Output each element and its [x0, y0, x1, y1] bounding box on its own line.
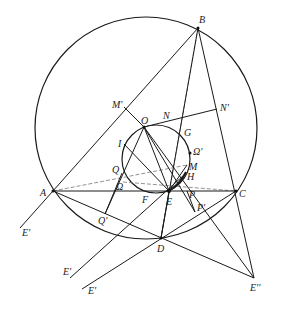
svg-text:O: O [141, 115, 148, 126]
svg-text:A: A [39, 187, 47, 198]
svg-text:E': E' [62, 266, 72, 277]
svg-text:B: B [199, 14, 205, 25]
geometry-diagram: B A C D E F G H I M M' N N' O P P' Q Q' … [0, 0, 282, 314]
svg-text:N': N' [219, 102, 230, 113]
point-labels: B A C D E F G H I M M' N N' O P P' Q Q' … [21, 14, 261, 296]
solid-lines [20, 28, 254, 289]
svg-text:F: F [141, 194, 149, 205]
svg-text:E'': E'' [249, 282, 261, 293]
svg-text:D: D [156, 243, 165, 254]
svg-text:M': M' [111, 99, 123, 110]
svg-text:G: G [184, 127, 191, 138]
svg-text:Ω: Ω [116, 181, 123, 192]
dashed-lines [53, 28, 236, 238]
svg-text:Ω': Ω' [193, 146, 203, 157]
circumcircle [35, 17, 257, 239]
svg-text:N: N [162, 110, 171, 121]
svg-text:Q: Q [112, 164, 120, 175]
svg-text:E': E' [87, 285, 97, 296]
svg-text:H: H [186, 171, 195, 182]
svg-text:M: M [188, 161, 198, 172]
svg-text:Q': Q' [98, 215, 108, 226]
svg-text:E': E' [21, 227, 31, 238]
svg-text:C: C [239, 188, 246, 199]
svg-text:I: I [117, 138, 122, 149]
svg-text:P': P' [196, 202, 206, 213]
svg-text:P: P [188, 189, 195, 200]
svg-text:E: E [165, 196, 172, 207]
